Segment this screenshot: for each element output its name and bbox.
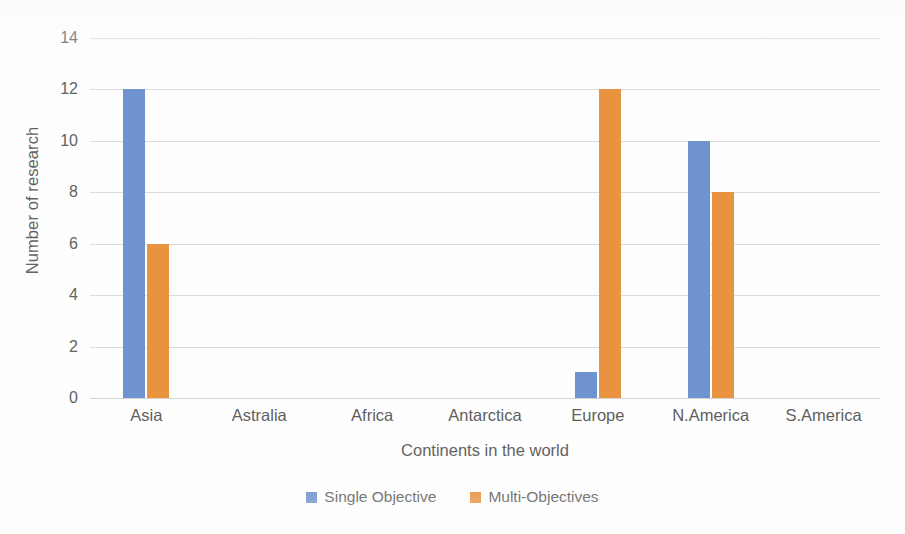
x-axis-tick-label: Astralia [232,406,287,425]
y-axis-tick-label: 14 [14,29,78,47]
bar-europe-multi-objectives [599,89,621,398]
gridline [90,347,880,348]
gridline [90,295,880,296]
bar-europe-single-objective [575,372,597,398]
gridline [90,244,880,245]
x-axis-tick-label: Europe [571,406,624,425]
bar-namerica-multi-objectives [712,192,734,398]
gridline [90,38,880,39]
y-axis-tick-labels: 02468101214 [12,38,78,398]
x-axis-tick-label: N.America [672,406,749,425]
legend-swatch-icon [470,492,481,503]
legend-label: Single Objective [324,488,436,506]
plot-area [90,38,880,398]
y-axis-tick-label: 2 [14,338,78,356]
bar-namerica-single-objective [688,141,710,398]
gridline [90,141,880,142]
y-axis-tick-label: 12 [14,80,78,98]
chart-legend: Single ObjectiveMulti-Objectives [0,488,905,506]
x-axis-tick-label: Africa [351,406,393,425]
bar-chart: Number of research 02468101214 AsiaAstra… [0,0,905,534]
legend-swatch-icon [306,492,317,503]
legend-label: Multi-Objectives [488,488,598,506]
bar-asia-single-objective [123,89,145,398]
y-axis-tick-label: 4 [14,286,78,304]
x-axis-title: Continents in the world [90,441,880,460]
x-axis-tick-labels: AsiaAstraliaAfricaAntarcticaEuropeN.Amer… [90,406,880,440]
legend-item[interactable]: Single Objective [306,488,436,506]
bar-asia-multi-objectives [147,244,169,398]
x-axis-tick-label: Antarctica [448,406,521,425]
x-axis-tick-label: S.America [786,406,862,425]
gridline [90,89,880,90]
y-axis-tick-label: 10 [14,132,78,150]
x-axis-tick-label: Asia [130,406,162,425]
gridline [90,192,880,193]
legend-item[interactable]: Multi-Objectives [470,488,598,506]
y-axis-tick-label: 8 [14,183,78,201]
gridline [90,398,880,399]
y-axis-tick-label: 6 [14,235,78,253]
y-axis-tick-label: 0 [14,389,78,407]
